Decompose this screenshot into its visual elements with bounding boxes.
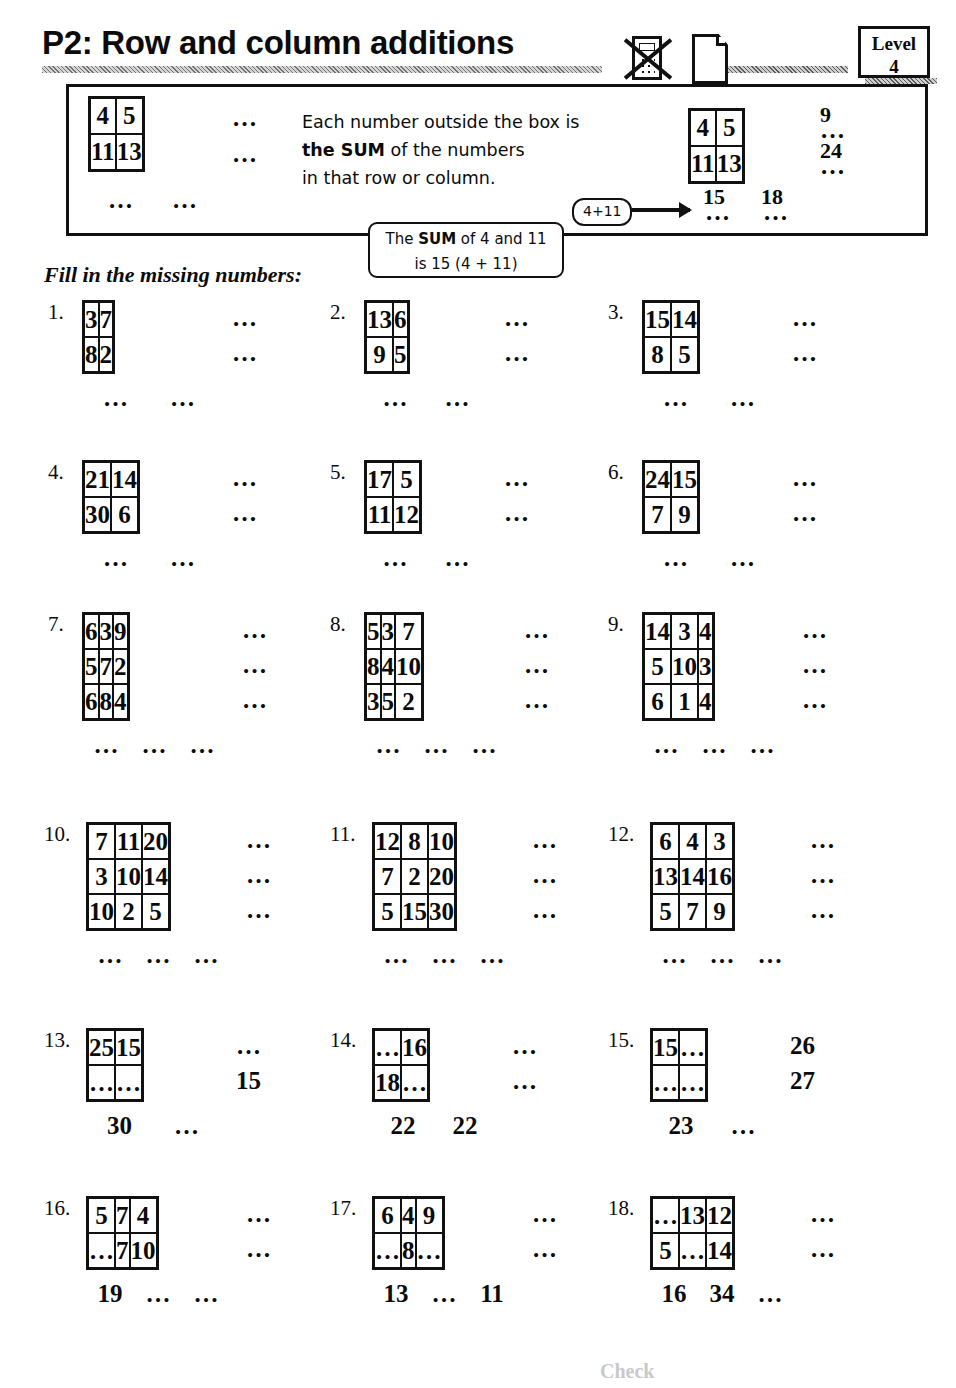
grid-cell-blank[interactable]: … [679, 1065, 707, 1101]
column-sum-blank[interactable]: … [460, 731, 508, 759]
grid-cell: 16 [401, 1030, 429, 1066]
row-sum-blank[interactable]: … [532, 826, 557, 854]
row-sum-blank[interactable]: … [532, 861, 557, 889]
grid-row: 614 [644, 684, 714, 720]
row-sum-blank[interactable]: … [810, 1235, 835, 1263]
column-sum-blank[interactable]: … [178, 731, 226, 759]
row-sum-blank[interactable]: … [524, 651, 549, 679]
grid-row: 136 [366, 302, 409, 338]
column-sum-blank[interactable]: … [134, 941, 182, 969]
column-sum-blank[interactable]: … [642, 384, 709, 412]
row-sum-blank[interactable]: … [524, 616, 549, 644]
row-sum-blank[interactable]: … [246, 826, 271, 854]
column-sum-blank[interactable]: … [642, 544, 709, 572]
column-sum-blank[interactable]: … [420, 1280, 468, 1308]
row-sum-blank[interactable]: … [810, 826, 835, 854]
row-sum-blank[interactable]: … [810, 861, 835, 889]
row-sum-blank[interactable]: … [810, 1200, 835, 1228]
grid-row: 1113 [90, 134, 144, 171]
column-sum-blank[interactable]: … [182, 941, 230, 969]
column-sum-blank[interactable]: … [709, 544, 776, 572]
grid-cell-blank[interactable]: … [652, 1198, 680, 1234]
row-sum-blank[interactable]: … [504, 464, 529, 492]
row-sum-blank[interactable]: … [232, 464, 257, 492]
grid-cell-blank[interactable]: … [416, 1233, 444, 1269]
column-sum-blank[interactable]: … [746, 941, 794, 969]
row-sum-blank[interactable]: … [232, 304, 257, 332]
column-sum-blank[interactable]: … [426, 384, 488, 412]
column-sum-blank[interactable]: … [134, 1280, 182, 1308]
row-sum-blank[interactable]: … [504, 304, 529, 332]
grid-cell: 10 [115, 859, 142, 894]
row-sum-blank[interactable]: … [802, 651, 827, 679]
row-sum-blank[interactable]: … [802, 686, 827, 714]
row-sum-blank[interactable]: … [504, 339, 529, 367]
row-sum-blank[interactable]: … [236, 1032, 261, 1060]
row-sum-blank[interactable]: … [532, 1235, 557, 1263]
row-sum-blank[interactable]: … [810, 896, 835, 924]
column-sum-blank[interactable]: … [82, 544, 149, 572]
column-sum-blank[interactable]: … [182, 1280, 230, 1308]
column-sum-blank[interactable]: … [746, 1280, 794, 1308]
column-sum-blank[interactable]: … [372, 941, 420, 969]
column-sum-blank[interactable]: … [712, 1112, 774, 1140]
row-sum-blank[interactable]: … [246, 1235, 271, 1263]
row-sum-blank[interactable]: … [242, 686, 267, 714]
grid-cell-blank[interactable]: … [679, 1233, 706, 1269]
row-sum-blank[interactable]: … [246, 861, 271, 889]
row-sum-blank[interactable]: … [232, 339, 257, 367]
row-sum-blank[interactable]: … [242, 616, 267, 644]
column-sum-blank[interactable]: … [82, 384, 149, 412]
grid-cell-blank[interactable]: … [374, 1030, 402, 1066]
grid-cell-blank[interactable]: … [679, 1030, 707, 1066]
row-sum-blank[interactable]: … [802, 616, 827, 644]
column-sum-blank[interactable]: … [149, 384, 216, 412]
row-sum-blank[interactable]: … [232, 499, 257, 527]
grid-cell: 5 [671, 337, 699, 373]
row-sum-blank[interactable]: … [532, 896, 557, 924]
grid-cell: 14 [679, 859, 706, 894]
column-sum-blank[interactable]: … [426, 544, 488, 572]
row-sum-blank[interactable]: … [792, 464, 817, 492]
row-sum-blank[interactable]: … [792, 339, 817, 367]
column-sum-blank[interactable]: … [650, 941, 698, 969]
example-row-sum-answer: 9 [820, 102, 831, 128]
grid-cell-blank[interactable]: … [88, 1233, 116, 1269]
row-sum-blank[interactable]: … [504, 499, 529, 527]
column-sum-blank[interactable]: … [709, 384, 776, 412]
column-sum-blank[interactable]: … [153, 1112, 220, 1140]
row-sum-blank[interactable]: … [246, 1200, 271, 1228]
grid-cell-blank[interactable]: … [652, 1065, 680, 1101]
grid-row: 15… [652, 1030, 707, 1066]
row-sum-blank[interactable]: … [792, 304, 817, 332]
grid-cell: 8 [401, 1233, 416, 1269]
column-sum-blank[interactable]: … [364, 384, 426, 412]
grid-cell: 9 [671, 497, 699, 533]
grid-row: 37 [84, 302, 114, 338]
column-sum-blank[interactable]: … [86, 941, 134, 969]
column-sum-blank[interactable]: … [698, 941, 746, 969]
row-sum-blank[interactable]: … [524, 686, 549, 714]
grid-cell-blank[interactable]: … [88, 1065, 116, 1101]
row-sum-blank[interactable]: … [792, 499, 817, 527]
column-sum-blank[interactable]: … [364, 544, 426, 572]
column-sum-blank[interactable]: … [420, 941, 468, 969]
row-sum-blank[interactable]: … [512, 1067, 537, 1095]
column-sum-blank[interactable]: … [82, 731, 130, 759]
column-sum-blank[interactable]: … [364, 731, 412, 759]
grid-cell-blank[interactable]: … [401, 1065, 429, 1101]
column-sum-blank[interactable]: … [130, 731, 178, 759]
grid-cell-blank[interactable]: … [374, 1233, 402, 1269]
row-sum-blank[interactable]: … [242, 651, 267, 679]
row-sum-blank[interactable]: … [512, 1032, 537, 1060]
grid-cell: 4 [90, 98, 116, 135]
column-sum-blank[interactable]: … [468, 941, 516, 969]
row-sum-blank[interactable]: … [532, 1200, 557, 1228]
column-sum-blank[interactable]: … [412, 731, 460, 759]
grid-cell-blank[interactable]: … [115, 1065, 143, 1101]
column-sum-blank[interactable]: … [690, 731, 738, 759]
row-sum-blank[interactable]: … [246, 896, 271, 924]
column-sum-blank[interactable]: … [738, 731, 786, 759]
column-sum-blank[interactable]: … [642, 731, 690, 759]
column-sum-blank[interactable]: … [149, 544, 216, 572]
